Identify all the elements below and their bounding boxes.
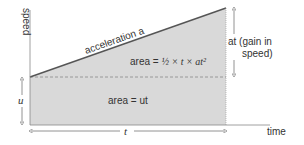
rectangle-area-label: area = ut (108, 95, 148, 106)
triangle-area-label: area = ½ × t × at² (130, 56, 207, 67)
speed-time-diagram: speed time acceleration a area = ½ × t ×… (0, 0, 304, 145)
speed-gain-label-1: at (gain in (228, 36, 272, 47)
y-axis-label: speed (21, 8, 32, 35)
x-axis-label: time (267, 126, 286, 137)
initial-speed-label: u (18, 94, 24, 106)
speed-gain-label-2: speed) (242, 48, 273, 59)
